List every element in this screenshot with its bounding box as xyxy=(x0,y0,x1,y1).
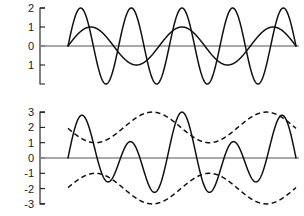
component-waves-plot: 2101 xyxy=(0,0,304,100)
component-waves-panel: 2101 xyxy=(0,0,304,100)
ytick-label: 1 xyxy=(28,59,34,71)
beats-figure: 2101 3210-1-2-3 xyxy=(0,0,304,216)
lower-envelope-curve xyxy=(68,173,296,204)
sum-wave-curve xyxy=(68,112,296,192)
ytick-label: 0 xyxy=(28,40,34,52)
ytick-label: 3 xyxy=(28,106,34,118)
ytick-label: 2 xyxy=(28,121,34,133)
ytick-label: -3 xyxy=(24,198,34,210)
ytick-label: -1 xyxy=(24,167,34,179)
sum-wave-plot: 3210-1-2-3 xyxy=(0,100,304,216)
ytick-label: 1 xyxy=(28,137,34,149)
sum-wave-panel: 3210-1-2-3 xyxy=(0,100,304,216)
ytick-label: 2 xyxy=(28,2,34,14)
upper-envelope-curve xyxy=(68,112,296,143)
ytick-label: 1 xyxy=(28,21,34,33)
ytick-label: -2 xyxy=(24,183,34,195)
ytick-label: 0 xyxy=(28,152,34,164)
